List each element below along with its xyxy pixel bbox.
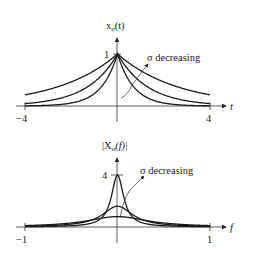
bottom-x-min-label: −1 bbox=[16, 234, 27, 245]
top-annotation-arrow bbox=[121, 64, 148, 98]
top-annotation: σ decreasing bbox=[147, 52, 201, 63]
diagram-canvas: xσ(t) 1 σ decreasing −4 4 t |Xσ(f)| 4 σ … bbox=[0, 0, 255, 262]
bottom-plot: |Xσ(f)| 4 σ decreasing −1 1 f bbox=[16, 140, 235, 245]
top-x-min-label: −4 bbox=[16, 113, 28, 124]
bottom-curve bbox=[25, 217, 210, 226]
bottom-annotation: σ decreasing bbox=[140, 165, 194, 176]
bottom-peak-tick-label: 4 bbox=[102, 170, 108, 181]
bottom-curves bbox=[25, 175, 210, 227]
top-t-axis-label: t bbox=[230, 101, 234, 112]
top-y-label: xσ(t) bbox=[106, 20, 125, 33]
bottom-y-label: |Xσ(f)| bbox=[102, 140, 128, 153]
bottom-x-max-label: 1 bbox=[207, 234, 212, 245]
top-plot: xσ(t) 1 σ decreasing −4 4 t bbox=[16, 20, 234, 124]
bottom-f-axis-label: f bbox=[230, 222, 235, 233]
top-x-max-label: 4 bbox=[206, 113, 212, 124]
bottom-curve bbox=[25, 175, 210, 227]
top-peak-tick-label: 1 bbox=[104, 49, 109, 60]
